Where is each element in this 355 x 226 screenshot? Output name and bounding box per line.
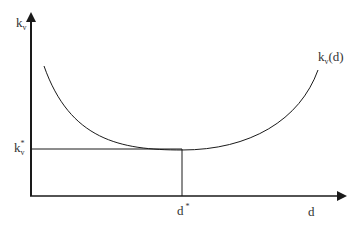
diagram-canvas: kv kv(d) k*v d* d xyxy=(0,0,355,226)
min-y-label: k*v xyxy=(14,139,25,157)
min-x-label: d* xyxy=(177,202,190,218)
y-axis-label: kv xyxy=(16,15,27,32)
curve-label: kv(d) xyxy=(318,49,344,66)
kv-curve xyxy=(44,66,318,150)
x-axis-label: d xyxy=(308,204,315,219)
